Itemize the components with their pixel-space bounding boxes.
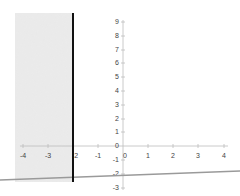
svg-text:-4: -4 [20,152,26,159]
svg-text:7: 7 [115,46,119,53]
svg-text:5: 5 [115,73,119,80]
svg-text:-3: -3 [113,184,119,191]
svg-text:0: 0 [123,152,127,159]
svg-text:1: 1 [115,128,119,135]
svg-text:4: 4 [222,152,226,159]
svg-text:3: 3 [196,152,200,159]
svg-text:2: 2 [171,152,175,159]
svg-text:8: 8 [115,32,119,39]
y-tick-labels: 9 8 7 6 5 4 3 2 1 0 -1 -2 -3 [113,18,119,191]
svg-text:0: 0 [115,142,119,149]
svg-text:6: 6 [115,59,119,66]
svg-text:4: 4 [115,87,119,94]
svg-text:-3: -3 [45,152,51,159]
svg-text:-1: -1 [95,152,101,159]
x-tick-labels: -4 -3 -2 -1 0 1 2 3 4 [20,152,226,159]
svg-text:2: 2 [115,115,119,122]
svg-text:9: 9 [115,18,119,25]
coordinate-plane: -4 -3 -2 -1 0 1 2 3 4 9 8 7 6 5 4 3 2 1 … [0,0,240,196]
svg-text:-1: -1 [113,156,119,163]
svg-text:1: 1 [146,152,150,159]
svg-text:3: 3 [115,101,119,108]
